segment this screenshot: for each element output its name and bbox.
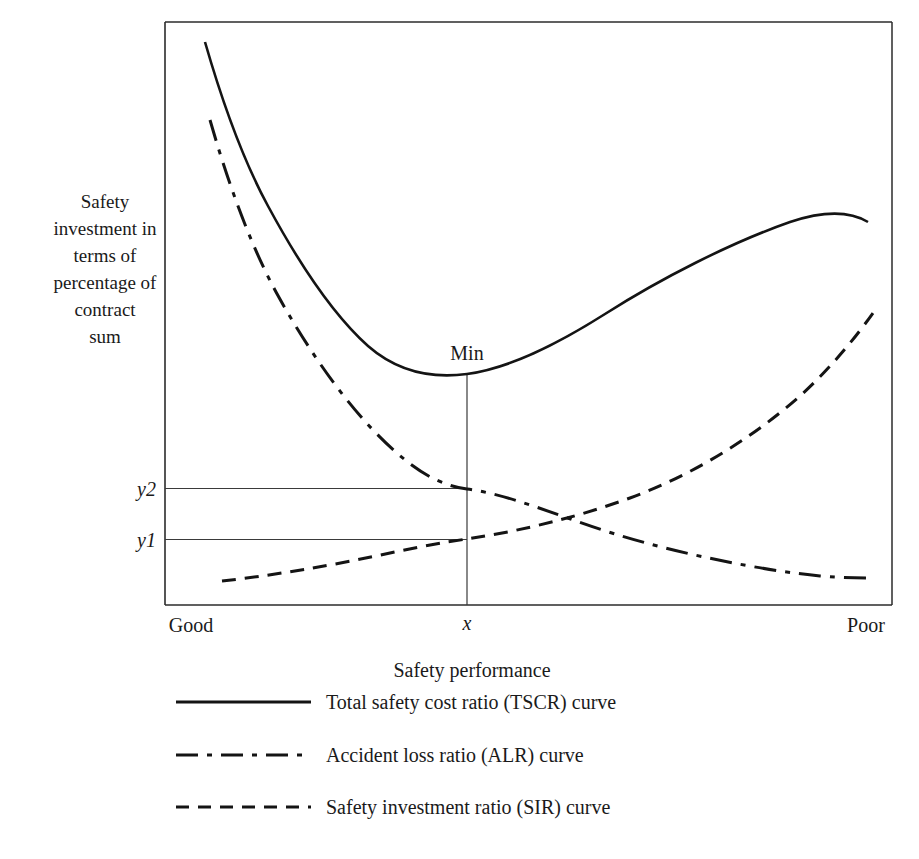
safety-cost-curve-chart: Min y2 y1 x Good Poor Safety performance… [0, 0, 919, 859]
legend-label-alr: Accident loss ratio (ALR) curve [326, 744, 584, 767]
curve-tscr [205, 42, 868, 375]
legend-label-sir: Safety investment ratio (SIR) curve [326, 796, 610, 819]
y-axis-label-line-3: terms of [74, 245, 137, 266]
y-tick-label-y2: y2 [135, 478, 156, 501]
legend: Total safety cost ratio (TSCR) curve Acc… [176, 691, 616, 819]
x-marker-label: x [462, 612, 472, 634]
legend-item-alr: Accident loss ratio (ALR) curve [176, 744, 584, 767]
legend-item-sir: Safety investment ratio (SIR) curve [176, 796, 610, 819]
figure-container: Min y2 y1 x Good Poor Safety performance… [0, 0, 919, 859]
legend-item-tscr: Total safety cost ratio (TSCR) curve [176, 691, 616, 714]
y-axis-label-line-4: percentage of [54, 272, 158, 293]
y-axis-label-line-5: contract [74, 299, 136, 320]
curve-sir [222, 313, 873, 581]
legend-label-tscr: Total safety cost ratio (TSCR) curve [326, 691, 616, 714]
x-category-poor: Poor [847, 614, 885, 636]
y-axis-label-line-2: investment in [54, 218, 157, 239]
min-annotation: Min [450, 342, 483, 364]
x-axis-title: Safety performance [393, 659, 550, 682]
x-category-good: Good [169, 614, 213, 636]
y-axis-label-line-6: sum [89, 326, 121, 347]
y-tick-label-y1: y1 [135, 529, 156, 552]
y-axis-label-line-1: Safety [81, 191, 130, 212]
